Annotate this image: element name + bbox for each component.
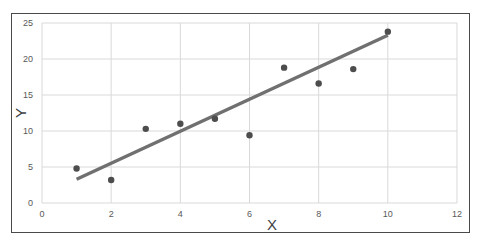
x-tick-label: 8 [316,209,321,219]
data-point [350,66,356,72]
x-axis-title: X [267,216,277,233]
trendline [77,35,388,179]
data-point [73,165,79,171]
trendline-path [77,35,388,179]
y-tick-label: 20 [23,54,33,64]
x-tick-label: 6 [247,209,252,219]
x-tick-label: 12 [452,209,462,219]
data-point [177,121,183,127]
y-tick-label: 25 [23,18,33,28]
y-axis-title: Y [12,108,29,118]
data-point [246,132,252,138]
data-point [281,64,287,70]
scatter-chart: 024681012 0510152025 X Y [0,0,479,242]
x-tick-label: 0 [39,209,44,219]
data-point [143,126,149,132]
data-point [315,80,321,86]
gridlines [42,23,457,203]
y-tick-label: 5 [28,162,33,172]
data-point [108,177,114,183]
x-tick-label: 10 [383,209,393,219]
y-tick-label: 10 [23,126,33,136]
x-tick-label: 2 [109,209,114,219]
x-axis-tick-labels: 024681012 [39,209,462,219]
y-tick-label: 0 [28,198,33,208]
data-point [385,28,391,34]
data-point [212,116,218,122]
x-tick-label: 4 [178,209,183,219]
y-tick-label: 15 [23,90,33,100]
